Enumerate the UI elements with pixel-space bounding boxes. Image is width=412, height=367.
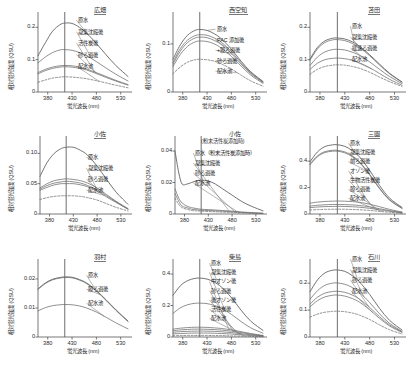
curve-label: 配水池 — [211, 316, 226, 322]
x-axis-label: 蛍光波長 (nm) — [304, 104, 408, 109]
y-tick-label: 0 — [147, 89, 170, 95]
curve-label: 凝集沈殿後 — [350, 150, 375, 156]
y-axis-label: 相対蛍光強度 (QSU) — [9, 288, 14, 335]
chart-panel-1: 広畑相対蛍光強度 (QSU)00.10.2380430480530蛍光波長 (n… — [0, 0, 137, 122]
curve-label: 配水池 — [195, 181, 210, 187]
x-tick-label: 380 — [177, 218, 193, 224]
curve-label: 凝集沈殿後 — [211, 270, 236, 276]
y-tick-label: 0.02 — [12, 276, 35, 282]
x-tick-label: 530 — [248, 96, 264, 102]
x-tick-label: 480 — [88, 96, 104, 102]
curve-label: 砂ろ過後 — [352, 278, 372, 284]
x-axis-label: 蛍光波長 (nm) — [304, 349, 408, 354]
x-tick-label: 530 — [248, 341, 264, 347]
curve-label: 凝集沈殿後 — [78, 30, 103, 36]
chart-panel-5: 小佐(粉末活性炭添加時)相対蛍光強度 (QSU)00.020.043804304… — [137, 122, 272, 243]
x-axis-label: 蛍光波長 (nm) — [167, 349, 269, 354]
x-tick-label: 430 — [337, 218, 353, 224]
curve-label: 配水池 — [352, 57, 367, 63]
y-axis-label: 相対蛍光強度 (QSU) — [146, 165, 151, 212]
y-tick-label: 0.1 — [284, 307, 307, 313]
x-tick-label: 430 — [64, 96, 80, 102]
panel-title: 小佐 — [94, 131, 106, 139]
x-tick-label: 380 — [40, 96, 56, 102]
chart-panel-6: 三園相対蛍光強度 (QSU)00.20.4380430480530蛍光波長 (n… — [272, 122, 412, 243]
curve-label: 活性炭後 — [78, 41, 98, 47]
x-tick-label: 430 — [337, 96, 353, 102]
x-tick-label: 480 — [362, 218, 378, 224]
curve-label: 配水池 — [88, 301, 103, 307]
curve-label: +膜ろ過後 — [217, 48, 240, 54]
panel-title: 広畑 — [94, 7, 106, 15]
x-tick-label: 380 — [312, 341, 328, 347]
curve-label: 凝集沈殿後 — [88, 166, 113, 172]
x-tick-label: 380 — [40, 341, 56, 347]
x-tick-label: 430 — [337, 341, 353, 347]
x-axis-label: 蛍光波長 (nm) — [169, 226, 269, 231]
curve-label: 生物活性炭後 — [350, 178, 380, 184]
x-tick-label: 380 — [175, 96, 191, 102]
chart-panel-2: 西空知相対蛍光強度 (QSU)00.1380430480530蛍光波長 (nm)… — [137, 0, 272, 122]
x-tick-label: 430 — [199, 96, 215, 102]
x-tick-label: 430 — [199, 341, 215, 347]
curve-label: 砂ろ過後 — [211, 289, 231, 295]
y-tick-label: 0.05 — [14, 181, 37, 187]
curve-label: 原水 — [88, 273, 98, 279]
y-tick-label: 0.2 — [284, 280, 307, 286]
x-tick-label: 530 — [387, 96, 403, 102]
curve-label: 砂ろ過後 — [78, 53, 98, 59]
y-tick-label: 0.1 — [12, 57, 35, 63]
y-tick-label: 0.1 — [284, 57, 307, 63]
figure-grid: 広畑相対蛍光強度 (QSU)00.10.2380430480530蛍光波長 (n… — [0, 0, 412, 367]
x-tick-label: 480 — [223, 341, 239, 347]
x-tick-label: 530 — [113, 218, 129, 224]
y-tick-label: 0 — [12, 334, 35, 340]
y-axis-label: 相対蛍光強度 (QSU) — [146, 288, 151, 335]
curve-label: 原水 — [78, 18, 88, 24]
y-axis-label: 相対蛍光強度 (QSU) — [9, 43, 14, 90]
curve-label: 配水池 — [350, 196, 365, 202]
y-tick-label: 0 — [284, 89, 307, 95]
curve-label: 原水 — [352, 257, 362, 263]
panel-title: 小佐 — [229, 131, 241, 138]
curve-label: 原水 — [352, 24, 362, 30]
chart-panel-7: 羽村相対蛍光強度 (QSU)00.010.02380430480530蛍光波長 … — [0, 243, 137, 367]
chart-panel-3: 苫田相対蛍光強度 (QSU)00.10.2380430480530蛍光波長 (n… — [272, 0, 412, 122]
curve-label: PAC 添加後 — [217, 38, 244, 44]
x-tick-label: 530 — [113, 96, 129, 102]
y-tick-label: 0 — [149, 211, 172, 217]
curve-label: 原水 — [211, 261, 221, 267]
curve-label: 膜ろ過後 — [350, 187, 370, 193]
curve-label: 前ろ過後 — [350, 159, 370, 165]
x-tick-label: 430 — [200, 218, 216, 224]
chart-panel-8: 柴島相対蛍光強度 (QSU)00.20.4380430480530蛍光波長 (n… — [137, 243, 272, 367]
curve-label: 配水池 — [217, 69, 232, 75]
chart-panel-9: 石川相対蛍光強度 (QSU)00.10.2380430480530蛍光波長 (n… — [272, 243, 412, 367]
x-tick-label: 480 — [224, 218, 240, 224]
y-tick-label: 0.4 — [284, 158, 307, 164]
y-axis-label: 相対蛍光強度 (QSU) — [9, 165, 14, 212]
x-tick-label: 430 — [64, 341, 80, 347]
x-tick-label: 380 — [312, 96, 328, 102]
x-tick-label: 380 — [175, 341, 191, 347]
y-tick-label: 0 — [14, 211, 37, 217]
panel-title: 羽村 — [94, 254, 106, 262]
x-tick-label: 480 — [89, 218, 105, 224]
y-tick-label: 0.2 — [147, 303, 170, 309]
panel-title: 三園 — [368, 131, 380, 139]
curve-label: 後オゾン後 — [211, 298, 236, 304]
curve-label: 緩速ろ過後 — [352, 46, 377, 52]
y-tick-label: 0.2 — [284, 24, 307, 30]
x-tick-label: 480 — [362, 96, 378, 102]
panel-title: 苫田 — [368, 7, 380, 15]
y-tick-label: 0 — [284, 211, 307, 217]
x-tick-label: 380 — [312, 218, 328, 224]
x-tick-label: 530 — [113, 341, 129, 347]
curve-label: 配水池 — [352, 289, 367, 295]
y-tick-label: 0.2 — [12, 24, 35, 30]
curve-label: 凝集沈殿後 — [195, 161, 220, 167]
curve-label: 砂ろ過後 — [195, 171, 215, 177]
curve-label: 配水池 — [88, 188, 103, 194]
x-tick-label: 480 — [88, 341, 104, 347]
curve-label: 中オゾン後 — [211, 279, 236, 285]
